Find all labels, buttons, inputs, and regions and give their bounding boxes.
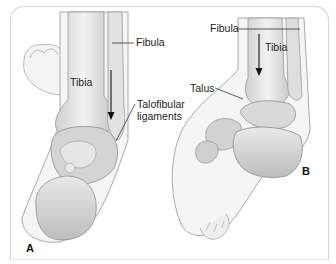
label-fibula-a: Fibula xyxy=(136,37,165,48)
label-talofibular-line2: ligaments xyxy=(137,111,182,122)
panel-a-drawing xyxy=(22,12,135,242)
panel-b-drawing xyxy=(172,18,310,239)
panel-letter-a: A xyxy=(26,242,34,254)
label-tibia-b: Tibia xyxy=(265,42,287,53)
label-talus-b: Talus xyxy=(190,83,215,94)
label-tibia-a: Tibia xyxy=(70,77,92,88)
label-talofibular-line1: Talofibular xyxy=(137,99,185,110)
ankle-illustration xyxy=(0,0,336,264)
panel-letter-b: B xyxy=(302,165,310,177)
label-fibula-b: Fibula xyxy=(210,23,239,34)
